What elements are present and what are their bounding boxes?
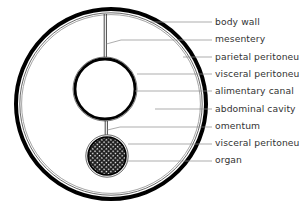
omentum [105,121,107,136]
label-visceral-peritoneum-lower: visceral peritoneum [215,137,299,148]
label-body-wall: body wall [215,16,260,27]
alimentary-canal [73,57,137,121]
leader-mesentery [106,40,212,44]
organ [86,135,128,177]
label-organ: organ [215,154,242,165]
label-omentum: omentum [215,120,260,131]
label-alimentary-canal: alimentary canal [215,85,294,96]
mesentery [104,14,106,57]
label-mesentery: mesentery [215,33,265,44]
label-visceral-peritoneum-upper: visceral peritoneum [215,68,299,79]
label-parietal-peritoneum: parietal peritoneum [215,51,299,62]
label-abdominal-cavity: abdominal cavity [215,103,296,114]
leader-omentum [107,127,212,130]
